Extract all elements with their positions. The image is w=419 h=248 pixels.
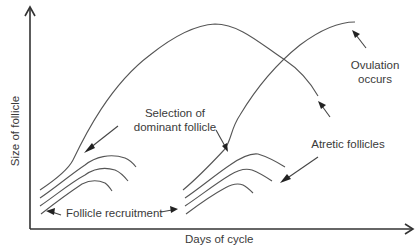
ovulation-label-line-2: occurs	[345, 72, 405, 86]
atretic-arrow-head-2-icon	[280, 174, 291, 183]
first-wave-subordinate-curve-1	[40, 156, 136, 198]
second-wave-subordinate-curve-2	[185, 169, 272, 206]
x-axis-label: Days of cycle	[185, 232, 253, 246]
ovulation-arrow-head-icon	[352, 30, 360, 38]
atretic-label: Atretic follicles	[300, 137, 396, 151]
follicle-diagram: Size of follicle Days of cycle Selection…	[0, 0, 419, 248]
ovulation-label-line-1: Ovulation	[345, 58, 405, 72]
atretic-arrow-line-2	[286, 157, 318, 179]
recruitment-arrow-head-2-icon	[170, 206, 178, 213]
atretic-arrow-head-1-icon	[318, 101, 326, 109]
recruitment-label: Follicle recruitment	[66, 206, 163, 220]
first-wave-subordinate-curve-2	[40, 168, 128, 206]
selection-arrow-head-1-icon	[84, 143, 95, 153]
ovulation-arrow-line	[356, 35, 366, 48]
second-wave-subordinate-curve-1	[185, 154, 285, 198]
selection-label-line-2: dominant follicle	[125, 120, 225, 134]
atretic-arrow-line-1	[322, 106, 330, 117]
y-axis-label: Size of follicle	[8, 86, 22, 176]
selection-label-line-1: Selection of	[135, 106, 215, 120]
selection-arrow-line-1	[90, 126, 118, 148]
